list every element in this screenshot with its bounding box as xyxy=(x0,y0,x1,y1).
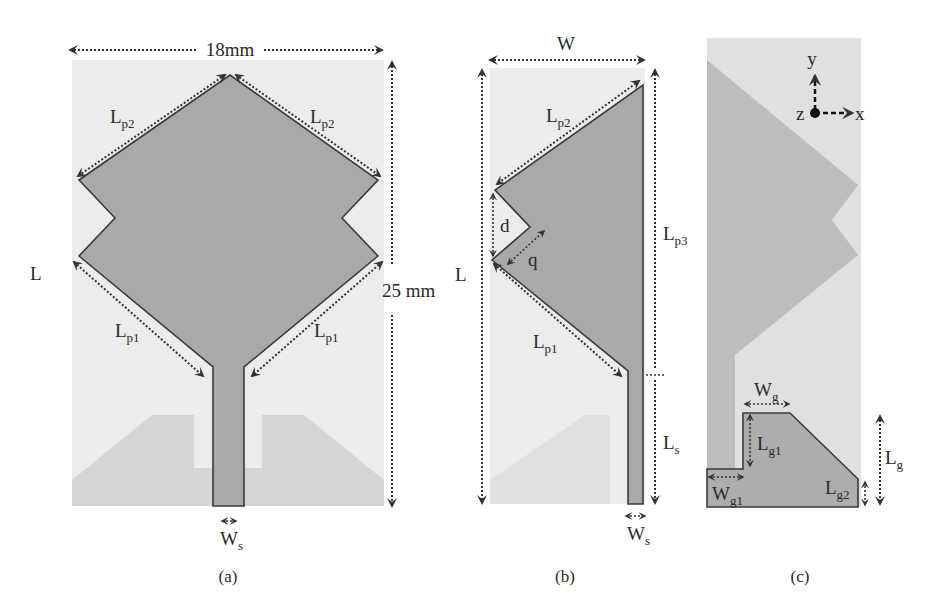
y-axis-label: y xyxy=(807,48,817,69)
caption-c: (c) xyxy=(791,567,810,586)
panel-a: 18mm 25 mm L Lp2 Lp2 Lp1 Lp1 Ws (a) xyxy=(30,39,436,586)
length-label-b: L xyxy=(455,264,467,285)
z-axis-dot xyxy=(810,108,820,118)
q-label: q xyxy=(528,249,538,270)
panel-c: y x z Wg Lg1 Wg1 Lg2 Lg (c) xyxy=(707,38,904,586)
ws-label-b: Ws xyxy=(627,523,650,548)
lg-label: Lg xyxy=(885,447,904,472)
ls-label: Ls xyxy=(663,432,680,457)
width-label-b: W xyxy=(557,33,575,54)
d-label: d xyxy=(500,215,510,236)
z-axis-label: z xyxy=(796,103,804,124)
panel-b: W L Lp3 Ls Lp2 Lp1 d q Ws (b) xyxy=(455,33,688,586)
antenna-diagram: 18mm 25 mm L Lp2 Lp2 Lp1 Lp1 Ws (a) W L … xyxy=(0,0,938,614)
ws-label-a: Ws xyxy=(220,528,243,553)
height-label-25mm: 25 mm xyxy=(382,280,436,301)
lp3-label: Lp3 xyxy=(663,223,688,248)
caption-a: (a) xyxy=(219,567,238,586)
x-axis-label: x xyxy=(855,103,865,124)
length-label-a: L xyxy=(30,263,42,284)
width-label-18mm: 18mm xyxy=(206,39,255,60)
caption-b: (b) xyxy=(555,567,575,586)
